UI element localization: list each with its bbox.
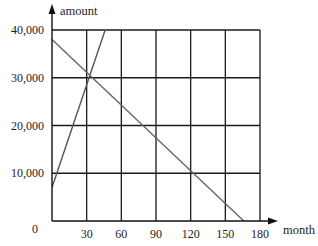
- y-tick-label: 30,000: [11, 71, 44, 85]
- axes: amount month: [49, 4, 316, 237]
- grid: [52, 30, 260, 221]
- line-chart: amount month 306090120150180010,00020,00…: [0, 0, 318, 246]
- x-tick-label: 90: [150, 227, 162, 241]
- x-tick-label: 120: [182, 227, 200, 241]
- y-axis-arrow-icon: [49, 4, 56, 14]
- x-tick-label: 150: [216, 227, 234, 241]
- x-axis-label: month: [283, 223, 316, 237]
- y-tick-label: 0: [32, 222, 38, 236]
- series-line-decreasing: [52, 40, 244, 221]
- y-tick-label: 10,000: [11, 166, 44, 180]
- x-tick-label: 180: [251, 227, 269, 241]
- x-tick-label: 60: [115, 227, 127, 241]
- y-tick-label: 20,000: [11, 119, 44, 133]
- y-axis-label: amount: [60, 4, 98, 18]
- x-tick-label: 30: [81, 227, 93, 241]
- y-tick-label: 40,000: [11, 23, 44, 37]
- series-line-increasing: [52, 30, 105, 188]
- x-axis-arrow-icon: [268, 218, 278, 225]
